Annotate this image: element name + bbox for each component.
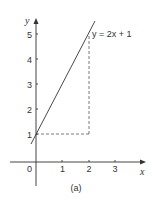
- x-tick-label-0: 0: [27, 164, 32, 174]
- y-tick-label-5: 5: [27, 30, 32, 40]
- line-chart: 0 1 2 3 1 2 3 4 5 x y y = 2x + 1: [0, 0, 152, 208]
- x-tick-label-3: 3: [113, 164, 118, 174]
- y-tick-label-1: 1: [27, 130, 32, 140]
- x-tick-label-1: 1: [60, 164, 65, 174]
- x-axis-arrow-icon: [140, 160, 146, 165]
- figure-caption: (a): [0, 183, 152, 193]
- y-axis-arrow-icon: [34, 18, 39, 24]
- y-tick-label-2: 2: [27, 105, 32, 115]
- x-tick-label-2: 2: [87, 164, 92, 174]
- equation-label: y = 2x + 1: [92, 29, 132, 39]
- x-axis-label: x: [139, 166, 145, 177]
- y-tick-label-4: 4: [27, 55, 32, 65]
- series-line-y-2x-plus-1: [31, 21, 95, 144]
- y-tick-label-3: 3: [27, 80, 32, 90]
- y-axis-label: y: [24, 15, 30, 26]
